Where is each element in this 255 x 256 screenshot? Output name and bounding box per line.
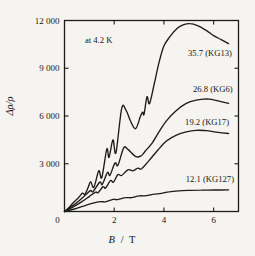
x-axis-separator: / — [121, 234, 124, 245]
x-axis-variable: B — [109, 234, 116, 245]
x-axis-label: B / T — [109, 234, 136, 245]
y-tick-label-6000: 6 000 — [39, 111, 60, 121]
y-tick-label-3000: 3 000 — [39, 159, 60, 169]
figure: 02463 0006 0009 00012 000at 4.2 K35.7 (K… — [0, 0, 255, 256]
temperature-note: at 4.2 K — [85, 35, 113, 45]
curve-label-kg17: 19.2 (KG17) — [185, 117, 229, 127]
x-tick-label-4: 4 — [162, 215, 167, 225]
y-axis-label: Δρ/ρ — [4, 96, 15, 116]
x-tick-label-2: 2 — [112, 215, 117, 225]
plot-area: 02463 0006 0009 00012 000at 4.2 K35.7 (K… — [35, 16, 239, 225]
curve-kg127 — [65, 190, 229, 212]
y-tick-label-9000: 9 000 — [39, 63, 60, 73]
curve-label-kg127: 12.1 (KG127) — [186, 174, 234, 184]
x-tick-label-6: 6 — [211, 215, 216, 225]
curve-label-kg13: 35.7 (KG13) — [188, 48, 232, 58]
y-tick-label-12000: 12 000 — [35, 16, 60, 26]
x-axis-unit: T — [129, 234, 136, 245]
curve-label-kg6: 26.8 (KG6) — [193, 84, 233, 94]
curve-kg6 — [65, 99, 229, 212]
curve-kg17 — [65, 130, 229, 211]
magnetoresistance-plot: 02463 0006 0009 00012 000at 4.2 K35.7 (K… — [0, 0, 255, 256]
x-tick-label-0: 0 — [55, 215, 60, 225]
